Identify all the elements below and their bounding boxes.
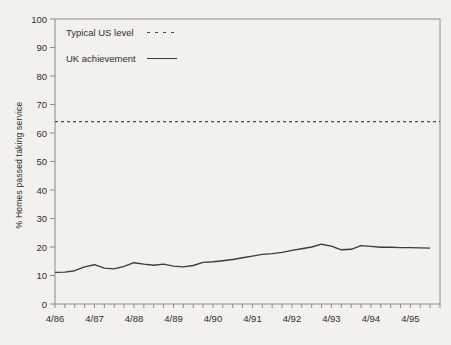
legend-label-us: Typical US level	[66, 27, 145, 38]
x-tick-label: 4/87	[85, 313, 104, 324]
y-tick-label: 10	[36, 270, 47, 281]
x-tick-label: 4/94	[362, 313, 381, 324]
x-tick-label: 4/88	[125, 313, 144, 324]
x-tick-label: 4/93	[322, 313, 341, 324]
y-tick-label: 0	[42, 299, 47, 310]
y-axis-title: % Homes passed taking service	[14, 102, 24, 229]
y-tick-label: 90	[36, 42, 47, 53]
uk-achievement-line	[55, 244, 430, 272]
y-tick-label: 40	[36, 185, 47, 196]
us-dashed-line-sample	[147, 32, 177, 34]
y-tick-label: 80	[36, 71, 47, 82]
y-tick-label: 70	[36, 99, 47, 110]
x-tick-label: 4/95	[401, 313, 420, 324]
x-tick-label: 4/91	[243, 313, 262, 324]
y-tick-label: 20	[36, 242, 47, 253]
y-tick-label: 30	[36, 213, 47, 224]
x-tick-label: 4/90	[204, 313, 223, 324]
legend: Typical US level UK achievement	[66, 26, 177, 78]
legend-label-uk: UK achievement	[66, 53, 145, 64]
chart-figure: 01020304050607080901004/864/874/884/894/…	[0, 0, 451, 345]
legend-item-us: Typical US level	[66, 26, 177, 39]
legend-item-uk: UK achievement	[66, 52, 177, 65]
y-tick-label: 100	[31, 14, 47, 25]
x-tick-label: 4/92	[283, 313, 302, 324]
x-tick-label: 4/86	[46, 313, 65, 324]
y-tick-label: 50	[36, 156, 47, 167]
x-tick-label: 4/89	[164, 313, 183, 324]
y-tick-label: 60	[36, 128, 47, 139]
uk-solid-line-sample	[147, 58, 177, 60]
